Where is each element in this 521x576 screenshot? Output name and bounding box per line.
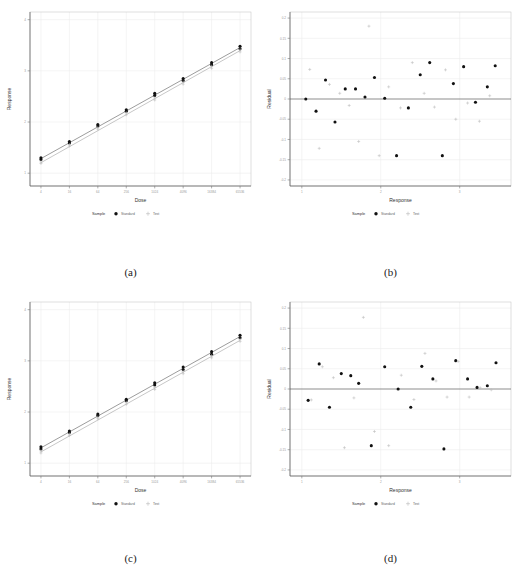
data-point-standard [494, 64, 497, 67]
series-test [308, 25, 491, 157]
legend-standard-marker-icon [114, 502, 117, 505]
legend-test-label: Test [413, 212, 419, 216]
data-point-standard [383, 97, 386, 100]
data-point-test [318, 147, 321, 150]
data-point-test [338, 92, 341, 95]
y-tick-label: 0.15 [280, 37, 286, 41]
series-standard [307, 359, 498, 450]
y-tick-label: 1 [24, 461, 26, 465]
data-point-test [488, 94, 491, 97]
data-point-test [373, 430, 376, 433]
legend: SampleStandardTest [352, 211, 419, 216]
legend: SampleStandardTest [352, 501, 419, 506]
data-point-test [348, 104, 351, 107]
x-axis: 123 [290, 476, 511, 484]
x-tick-label: 2 [380, 480, 382, 484]
data-point-standard [466, 377, 469, 380]
dose-response-chart-c: 416642561024409616384655361234DoseRespon… [0, 290, 261, 524]
y-tick-label: 3 [24, 69, 26, 73]
legend-title: Sample [92, 501, 105, 506]
legend-title: Sample [92, 211, 105, 216]
data-point-standard [452, 82, 455, 85]
x-tick-label: 16 [68, 480, 72, 484]
data-point-standard [454, 359, 457, 362]
data-point-standard [409, 406, 412, 409]
data-point-standard [373, 76, 376, 79]
x-tick-label: 16384 [207, 480, 216, 484]
y-tick-label: 0.1 [282, 347, 287, 351]
legend-standard-label: Standard [381, 212, 395, 216]
caption-a: (a) [0, 266, 261, 278]
x-tick-label: 256 [124, 480, 129, 484]
data-point-test [468, 396, 471, 399]
y-tick-label: 3 [24, 359, 26, 363]
legend-test-marker-icon [406, 212, 410, 216]
data-point-standard [395, 154, 398, 157]
y-tick-label: 4 [24, 18, 26, 22]
data-point-standard [476, 386, 479, 389]
gridlines [30, 302, 251, 476]
panel-a-plot: 416642561024409616384655361234DoseRespon… [0, 0, 261, 234]
plot-frame [30, 302, 251, 476]
y-tick-label: -0.1 [281, 138, 287, 142]
legend-standard-label: Standard [381, 502, 395, 506]
dose-response-chart-a: 416642561024409616384655361234DoseRespon… [0, 0, 261, 234]
plot-frame [30, 12, 251, 186]
data-point-standard [486, 384, 489, 387]
x-tick-label: 3 [459, 480, 461, 484]
x-tick-label: 4096 [180, 190, 187, 194]
data-point-standard [486, 85, 489, 88]
data-point-standard [354, 87, 357, 90]
data-point-test [400, 374, 403, 377]
legend: SampleStandardTest [92, 501, 159, 506]
legend-standard-label: Standard [121, 212, 135, 216]
data-point-standard [349, 374, 352, 377]
data-point-standard [304, 97, 307, 100]
y-tick-label: -0.15 [279, 158, 286, 162]
y-axis: 0.20.150.10.050-0.05-0.1-0.15-0.2 [279, 12, 290, 186]
data-point-test [367, 25, 370, 28]
x-tick-label: 1024 [151, 190, 158, 194]
data-point-test [153, 99, 156, 102]
fit-line-test [41, 340, 240, 452]
y-tick-label: 0.1 [282, 57, 287, 61]
y-tick-label: -0.05 [279, 407, 286, 411]
x-tick-label: 64 [96, 190, 100, 194]
data-point-test [239, 50, 242, 53]
y-axis-title: Response [6, 378, 12, 401]
x-tick-label: 1024 [151, 480, 158, 484]
legend-title: Sample [352, 211, 365, 216]
data-point-standard [431, 377, 434, 380]
y-tick-label: 1 [24, 171, 26, 175]
caption-c: (c) [0, 552, 261, 564]
x-tick-label: 16 [68, 190, 72, 194]
x-tick-label: 4096 [180, 480, 187, 484]
data-point-test [308, 68, 311, 71]
y-tick-label: 0 [284, 387, 286, 391]
x-tick-label: 2 [380, 190, 382, 194]
data-point-standard [328, 406, 331, 409]
data-point-test [423, 92, 426, 95]
x-tick-label: 256 [124, 190, 129, 194]
x-tick-label: 64 [96, 480, 100, 484]
data-point-standard [324, 78, 327, 81]
panel-a: 416642561024409616384655361234DoseRespon… [0, 0, 261, 290]
data-point-standard [442, 447, 445, 450]
data-point-test [378, 154, 381, 157]
caption-b: (b) [260, 266, 521, 278]
legend-standard-label: Standard [121, 502, 135, 506]
data-point-standard [419, 73, 422, 76]
y-tick-label: 0.2 [282, 16, 287, 20]
data-point-test [466, 102, 469, 105]
data-point-test [352, 396, 355, 399]
data-point-standard [420, 365, 423, 368]
residual-chart-b: 1230.20.150.10.050-0.05-0.1-0.15-0.2Resp… [260, 0, 521, 234]
panel-c: 416642561024409616384655361234DoseRespon… [0, 290, 261, 576]
data-point-standard [314, 110, 317, 113]
y-tick-label: 0.05 [280, 77, 286, 81]
data-point-test [387, 444, 390, 447]
legend-test-marker-icon [146, 502, 150, 506]
x-axis: 41664256102440961638465536 [30, 476, 251, 484]
y-tick-label: -0.05 [279, 117, 286, 121]
y-tick-label: 0.15 [280, 327, 286, 331]
